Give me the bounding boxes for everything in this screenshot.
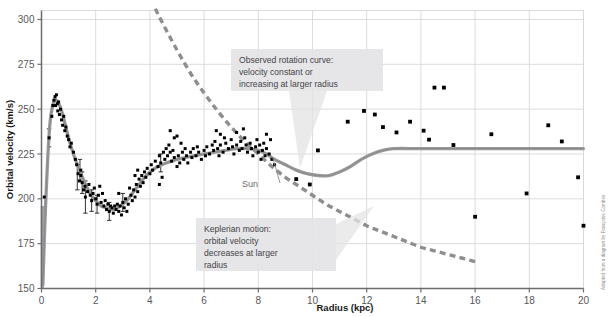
y-tick-label: 250: [18, 104, 35, 115]
data-point: [181, 151, 184, 154]
data-point: [257, 151, 260, 154]
data-point: [72, 151, 75, 154]
data-point: [165, 147, 168, 150]
data-point: [138, 178, 141, 181]
x-tick-label: 6: [201, 295, 207, 306]
data-point: [135, 183, 138, 186]
credit-text: Adapted from a diagram by Françoise Comb…: [601, 194, 606, 290]
data-point: [94, 197, 97, 200]
data-point: [268, 152, 271, 155]
data-point: [84, 196, 87, 199]
data-point: [51, 104, 54, 107]
data-point: [189, 151, 192, 154]
data-point: [112, 212, 115, 215]
data-point: [86, 190, 89, 193]
data-point: [161, 176, 164, 179]
data-point: [362, 109, 366, 113]
keplerian-callout-line: orbital velocity: [204, 236, 259, 246]
data-point: [242, 127, 245, 130]
data-point: [208, 152, 211, 155]
data-point: [123, 206, 126, 209]
data-point: [489, 132, 493, 136]
data-point: [346, 120, 350, 124]
data-point: [249, 142, 252, 145]
data-point: [60, 118, 63, 121]
data-point: [219, 144, 222, 147]
data-point: [93, 187, 96, 190]
data-point: [124, 197, 127, 200]
data-point: [218, 154, 221, 157]
rotation-curve-figure: Observed rotation curve:velocity constan…: [0, 0, 616, 317]
data-point: [48, 136, 51, 139]
data-point: [89, 194, 92, 197]
data-point: [97, 194, 100, 197]
data-point: [56, 109, 59, 112]
data-point: [170, 160, 173, 163]
data-point: [173, 136, 176, 139]
data-point: [70, 142, 73, 145]
data-point: [196, 145, 199, 148]
data-point: [176, 135, 179, 138]
data-point: [136, 190, 139, 193]
data-point: [142, 181, 145, 184]
data-point: [216, 147, 219, 150]
data-point: [74, 158, 77, 161]
data-point: [96, 203, 99, 206]
data-point: [200, 158, 203, 161]
data-point: [408, 120, 412, 124]
data-point: [243, 136, 246, 139]
data-point: [116, 203, 119, 206]
data-point: [235, 144, 238, 147]
data-point: [260, 158, 263, 161]
data-point: [100, 201, 103, 204]
data-point: [59, 108, 62, 111]
data-point: [250, 147, 253, 150]
data-point: [235, 131, 238, 134]
y-axis-title: Orbital velocity (km/s): [4, 100, 15, 199]
data-point: [113, 205, 116, 208]
data-point: [177, 154, 180, 157]
data-point: [190, 156, 193, 159]
data-point: [254, 145, 257, 148]
data-point: [582, 224, 586, 228]
data-point: [154, 160, 157, 163]
x-tick-label: 4: [147, 295, 153, 306]
data-point: [110, 206, 113, 209]
data-point: [180, 142, 183, 145]
data-point: [79, 174, 82, 177]
data-point: [245, 144, 248, 147]
data-point: [150, 163, 153, 166]
data-point: [131, 199, 134, 202]
data-point: [184, 147, 187, 150]
data-point: [473, 215, 477, 219]
data-point: [546, 123, 550, 127]
data-point: [157, 165, 160, 168]
data-point: [258, 144, 261, 147]
data-point: [158, 154, 161, 157]
data-point: [136, 169, 139, 172]
data-point: [232, 152, 235, 155]
data-point: [105, 208, 108, 211]
data-point: [119, 205, 122, 208]
data-point: [239, 140, 242, 143]
data-point: [139, 185, 142, 188]
data-point: [162, 151, 165, 154]
data-point: [134, 174, 137, 177]
data-point: [261, 149, 264, 152]
keplerian-callout-line: Keplerian motion:: [204, 224, 271, 234]
data-point: [140, 174, 143, 177]
data-point: [102, 205, 105, 208]
y-tick-label: 225: [18, 149, 35, 160]
data-point: [55, 93, 58, 96]
data-point: [373, 113, 377, 117]
data-point: [66, 135, 69, 138]
data-point: [57, 100, 60, 103]
data-point: [186, 161, 189, 164]
data-point: [224, 142, 227, 145]
data-point: [117, 192, 120, 195]
observed-callout-line: increasing at larger radius: [239, 79, 338, 89]
data-point: [171, 149, 174, 152]
data-point: [144, 176, 147, 179]
data-point: [167, 144, 170, 147]
y-tick-label: 300: [18, 14, 35, 25]
